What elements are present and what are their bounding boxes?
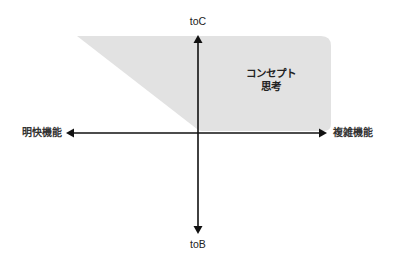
concept-thinking-label: コンセプト 思考 xyxy=(246,67,296,93)
axis-label-bottom: toB xyxy=(190,238,206,250)
arrow-left-icon xyxy=(66,129,74,138)
region-label-line1: コンセプト xyxy=(246,67,296,80)
quadrant-diagram: toC toB 明快機能 複雑機能 コンセプト 思考 xyxy=(0,0,393,258)
arrow-down-icon xyxy=(194,226,203,234)
axis-label-top: toC xyxy=(190,15,206,27)
axis-label-right: 複雑機能 xyxy=(333,127,373,139)
axis-label-left: 明快機能 xyxy=(22,127,62,139)
region-label-line2: 思考 xyxy=(246,80,296,93)
